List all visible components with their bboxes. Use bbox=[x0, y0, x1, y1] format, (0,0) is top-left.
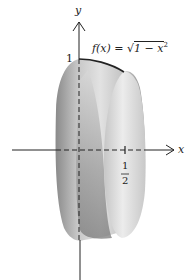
x-axis-label: x bbox=[178, 144, 184, 155]
function-label: f(x) = √1 − x2 bbox=[92, 42, 168, 54]
y-tick-label: 1 bbox=[66, 53, 73, 64]
function-name: f(x) = bbox=[92, 42, 127, 55]
y-axis-label: y bbox=[75, 5, 81, 16]
x-tick-numerator: 1 bbox=[122, 161, 128, 171]
x-tick-denominator: 2 bbox=[122, 176, 128, 186]
exponent: 2 bbox=[164, 41, 168, 49]
radicand: 1 − x bbox=[134, 41, 163, 55]
